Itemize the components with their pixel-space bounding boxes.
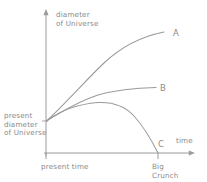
x-axis: [44, 150, 195, 155]
y-axis-title-line2: of Universe: [56, 19, 98, 28]
curve-a: [47, 32, 165, 121]
curve-label-b: B: [160, 84, 166, 93]
y-tick-label-line3: of Universe: [4, 128, 46, 137]
curve-label-a: A: [173, 29, 179, 38]
big-crunch-line2: Crunch: [152, 171, 179, 180]
curve-label-c: C: [158, 140, 164, 149]
x-tick-label-big-crunch: BigCrunch: [152, 163, 179, 180]
y-axis-title: diameterof Universe: [56, 11, 98, 28]
universe-expansion-diagram: diameterof Universe presentdiameterof Un…: [0, 0, 207, 182]
x-tick-label-present-time: present time: [41, 163, 89, 172]
x-axis-title: time: [176, 137, 193, 146]
curve-c: [47, 102, 159, 153]
y-tick-label-present-diameter: presentdiameterof Universe: [4, 112, 46, 138]
